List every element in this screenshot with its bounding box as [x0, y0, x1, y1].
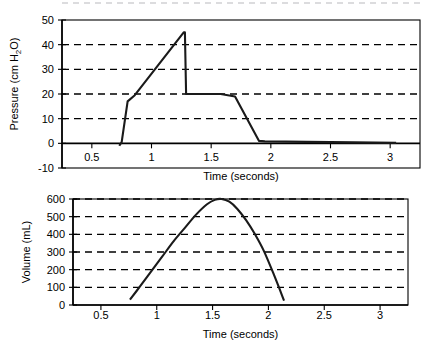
pressure-y-axis-title: Pressure (cm H2O) [8, 37, 23, 130]
volume-data-line [130, 199, 284, 301]
x-tick-label: 0.5 [84, 151, 99, 163]
x-tick-label: 1.5 [205, 309, 220, 321]
y-tick-label: 500 [47, 211, 65, 223]
x-tick-label: 2 [265, 309, 271, 321]
y-tick-label: -10 [38, 162, 54, 174]
x-tick-label: 2.5 [317, 309, 332, 321]
y-tick-label: 0 [59, 299, 65, 311]
y-tick-label: 300 [47, 246, 65, 258]
volume-y-axis-title: Volume (mL) [20, 221, 32, 283]
pressure-y-tick-labels: -1001020304050 [38, 14, 54, 174]
y-tick-label: 600 [47, 193, 65, 205]
y-tick-label: 40 [42, 39, 54, 51]
volume-y-tick-labels: 0100200300400500600 [47, 193, 65, 311]
x-tick-label: 3 [377, 309, 383, 321]
x-tick-label: 3 [387, 151, 393, 163]
volume-x-tick-labels: 0.511.522.53 [93, 309, 383, 321]
x-tick-label: 1 [154, 309, 160, 321]
y-tick-label: 10 [42, 113, 54, 125]
pressure-data-line [119, 32, 396, 145]
respiratory-waveform-figure: -1001020304050 0.511.522.53 Time (second… [0, 0, 430, 346]
y-tick-label: 50 [42, 14, 54, 26]
x-tick-label: 2.5 [323, 151, 338, 163]
pressure-x-tick-labels: 0.511.522.53 [84, 151, 393, 163]
x-tick-label: 0.5 [93, 309, 108, 321]
x-tick-label: 2 [268, 151, 274, 163]
y-tick-label: 20 [42, 88, 54, 100]
y-tick-label: 30 [42, 63, 54, 75]
y-tick-label: 100 [47, 281, 65, 293]
volume-chart-panel: 0100200300400500600 0.511.522.53 Time (s… [20, 193, 408, 340]
pressure-chart-panel: -1001020304050 0.511.522.53 Time (second… [8, 14, 420, 182]
chart-canvas: -1001020304050 0.511.522.53 Time (second… [0, 0, 430, 346]
volume-tickmarks [69, 199, 380, 310]
y-tick-label: 200 [47, 264, 65, 276]
volume-x-axis-title: Time (seconds) [203, 328, 278, 340]
svg-text:Pressure (cm H2O): Pressure (cm H2O) [8, 37, 23, 130]
x-tick-label: 1.5 [204, 151, 219, 163]
y-tick-label: 0 [48, 137, 54, 149]
x-tick-label: 1 [148, 151, 154, 163]
pressure-x-axis-title: Time (seconds) [203, 170, 278, 182]
y-tick-label: 400 [47, 228, 65, 240]
